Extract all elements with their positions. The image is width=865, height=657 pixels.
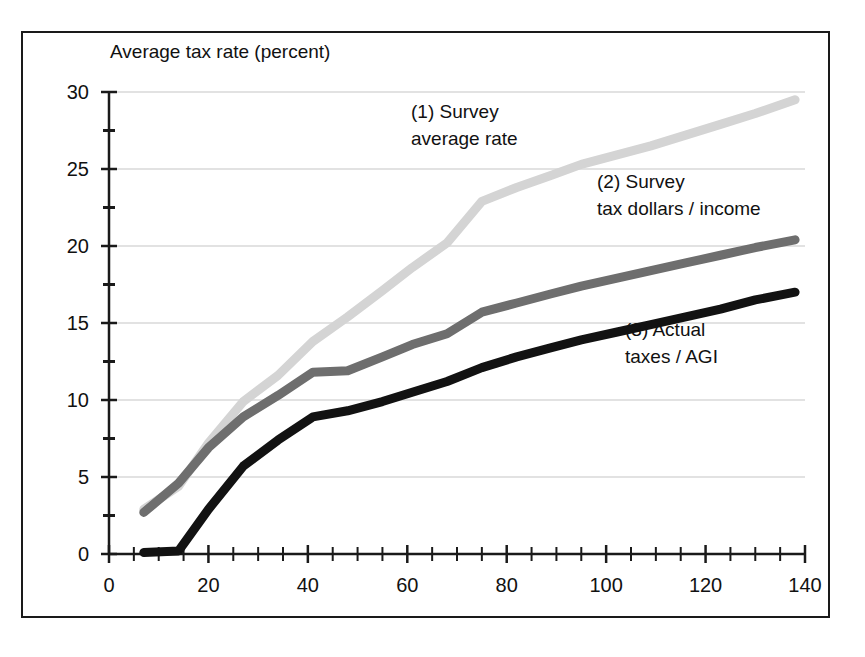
chart-title: Average tax rate (percent) — [110, 41, 330, 62]
x-axis-tick-labels: 020406080100120140 — [103, 574, 821, 596]
series-annotation-1-line2: average rate — [411, 128, 518, 149]
x-axis-tick-label: 120 — [689, 574, 722, 596]
x-axis-tick-label: 40 — [297, 574, 319, 596]
series-annotation-2-line2: tax dollars / income — [597, 198, 761, 219]
series-line-1 — [144, 100, 795, 510]
x-axis-tick-label: 140 — [788, 574, 821, 596]
x-axis-tick-label: 80 — [496, 574, 518, 596]
series-annotation-2-line1: (2) Survey — [597, 171, 685, 192]
x-axis-title: Income in thousands of 1996 dollars — [304, 615, 609, 616]
x-axis-tick-label: 20 — [197, 574, 219, 596]
series-annotation-1-line1: (1) Survey — [411, 101, 499, 122]
x-axis-tick-label: 100 — [589, 574, 622, 596]
y-axis-tick-label: 15 — [67, 312, 89, 334]
figure-frame: 051015202530 020406080100120140 (1) Surv… — [21, 31, 830, 618]
y-axis-tick-label: 10 — [67, 389, 89, 411]
y-axis-tick-label: 30 — [67, 81, 89, 103]
y-axis-tick-label: 0 — [78, 543, 89, 565]
y-axis-tick-labels: 051015202530 — [67, 81, 89, 565]
chart-plot: 051015202530 020406080100120140 (1) Surv… — [23, 33, 828, 616]
series-annotation-3-line2: taxes / AGI — [625, 346, 718, 367]
figure-root: 051015202530 020406080100120140 (1) Surv… — [0, 0, 865, 657]
series-annotation-3-line1: (3) Actual — [625, 319, 705, 340]
x-axis-tick-label: 60 — [396, 574, 418, 596]
x-axis-tick-label: 0 — [103, 574, 114, 596]
y-axis-tick-label: 5 — [78, 466, 89, 488]
y-axis-tick-label: 20 — [67, 235, 89, 257]
y-axis-tick-label: 25 — [67, 158, 89, 180]
